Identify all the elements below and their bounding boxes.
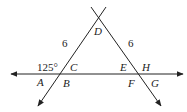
side-label-DE: 6 <box>128 37 134 49</box>
side-label-DC: 6 <box>62 37 68 49</box>
label-G: G <box>151 77 159 89</box>
label-C: C <box>70 61 78 73</box>
label-F: F <box>127 77 135 89</box>
angle-label: 125° <box>37 61 58 73</box>
label-A: A <box>36 76 44 88</box>
left-transversal-line <box>38 7 106 106</box>
right-transversal-line <box>91 7 161 106</box>
label-B: B <box>63 77 70 89</box>
label-D: D <box>93 25 102 37</box>
label-E: E <box>119 61 127 73</box>
geometry-diagram: D 6 6 125° C E H A B F G <box>0 0 187 112</box>
label-H: H <box>141 61 151 73</box>
